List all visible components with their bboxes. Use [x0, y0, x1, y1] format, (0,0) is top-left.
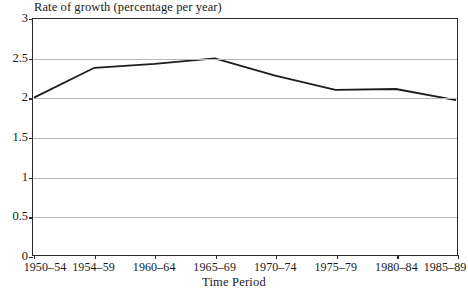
x-axis-tick-label: 1965–69: [193, 260, 236, 275]
data-line-svg: [33, 19, 457, 255]
x-axis-tick: [216, 255, 217, 259]
x-axis-tick: [155, 255, 156, 259]
gridline: [33, 178, 457, 179]
y-axis-labels: 00.511.522.53: [0, 18, 28, 256]
x-axis-tick: [458, 255, 459, 259]
x-axis-tick-label: 1950–54: [24, 260, 67, 275]
x-axis-tick: [337, 255, 338, 259]
y-axis-tick: [29, 138, 33, 139]
gridline: [33, 59, 457, 60]
x-axis-title: Time Period: [0, 275, 468, 290]
y-axis-tick: [29, 217, 33, 218]
x-axis-tick: [276, 255, 277, 259]
y-axis-tick: [29, 257, 33, 258]
x-axis-labels: 1950–541954–591960–641965–691970–741975–…: [32, 260, 458, 276]
x-axis-tick-label: 1970–74: [254, 260, 297, 275]
y-axis-tick: [29, 178, 33, 179]
y-axis-tick-label: 1.5: [0, 130, 28, 145]
x-axis-tick: [34, 255, 35, 259]
x-axis-tick-label: 1985–89: [424, 260, 467, 275]
y-axis-tick-label: 2.5: [0, 50, 28, 65]
y-axis-tick-label: 0.5: [0, 209, 28, 224]
plot-area: [32, 18, 458, 256]
x-axis-tick-label: 1980–84: [375, 260, 418, 275]
x-axis-tick-label: 1975–79: [314, 260, 357, 275]
y-axis-tick: [29, 19, 33, 20]
y-axis-tick-label: 1: [0, 169, 28, 184]
gridline: [33, 138, 457, 139]
growth-rate-line-chart: Rate of growth (percentage per year) 00.…: [0, 0, 468, 293]
y-axis-tick-label: 3: [0, 11, 28, 26]
gridline: [33, 98, 457, 99]
growth-rate-line: [34, 58, 456, 100]
y-axis-tick-label: 2: [0, 90, 28, 105]
x-axis-tick: [397, 255, 398, 259]
chart-title: Rate of growth (percentage per year): [34, 0, 222, 15]
y-axis-tick: [29, 59, 33, 60]
y-axis-tick: [29, 98, 33, 99]
x-axis-tick-label: 1960–64: [133, 260, 176, 275]
x-axis-tick: [95, 255, 96, 259]
x-axis-tick-label: 1954–59: [72, 260, 115, 275]
gridline: [33, 217, 457, 218]
